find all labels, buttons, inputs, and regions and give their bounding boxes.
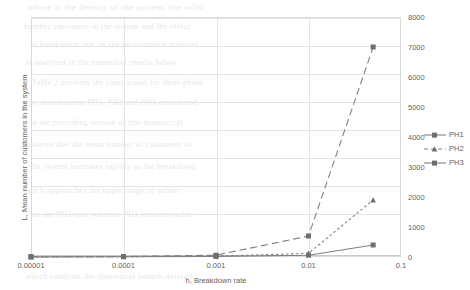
y-tick-label: 4000 [408, 133, 425, 142]
series-marker-ph3 [121, 254, 126, 259]
x-tick-label: 0.001 [207, 261, 226, 270]
series-line-ph3 [31, 47, 373, 257]
x-tick-label: 0.00001 [17, 261, 44, 270]
legend-key-ph3-icon [424, 158, 446, 168]
legend: PH1 PH2 PH3 [424, 128, 464, 170]
legend-label-ph3: PH3 [449, 158, 464, 168]
bleed-line: where is the density of the system, the … [28, 2, 203, 12]
series-marker-ph3 [214, 253, 219, 258]
legend-item-ph2[interactable]: PH2 [424, 142, 464, 156]
y-tick-label: 0 [408, 253, 412, 262]
y-tick-label: 6000 [408, 73, 425, 82]
legend-label-ph2: PH2 [449, 144, 464, 154]
chart-page: where is the density of the system, the … [0, 0, 470, 290]
y-tick-label: 5000 [408, 103, 425, 112]
x-tick-label: 0.1 [396, 261, 406, 270]
y-axis-title: L, Mean number of customers in the syste… [20, 48, 29, 248]
y-tick-label: 2000 [408, 193, 425, 202]
legend-item-ph1[interactable]: PH1 [424, 128, 464, 142]
x-tick-label: 0.0001 [112, 261, 135, 270]
series-marker-ph3 [371, 45, 376, 50]
x-tick-label: 0.01 [301, 261, 316, 270]
legend-key-ph1-icon [424, 130, 446, 140]
y-tick-label: 3000 [408, 163, 425, 172]
legend-item-ph3[interactable]: PH3 [424, 156, 464, 170]
series-marker-ph1 [371, 243, 376, 248]
y-tick-label: 7000 [408, 43, 425, 52]
y-tick-label: 8000 [408, 13, 425, 22]
y-tick-label: 1000 [408, 223, 425, 232]
series-marker-ph3 [29, 254, 34, 259]
legend-key-ph2-icon [424, 144, 446, 154]
series-layer [31, 17, 401, 257]
series-marker-ph3 [306, 234, 311, 239]
series-line-ph2 [31, 200, 373, 257]
legend-label-ph1: PH1 [449, 130, 464, 140]
series-marker-ph2 [370, 197, 376, 202]
x-axis-title: h, Breakdown rate [31, 276, 401, 285]
